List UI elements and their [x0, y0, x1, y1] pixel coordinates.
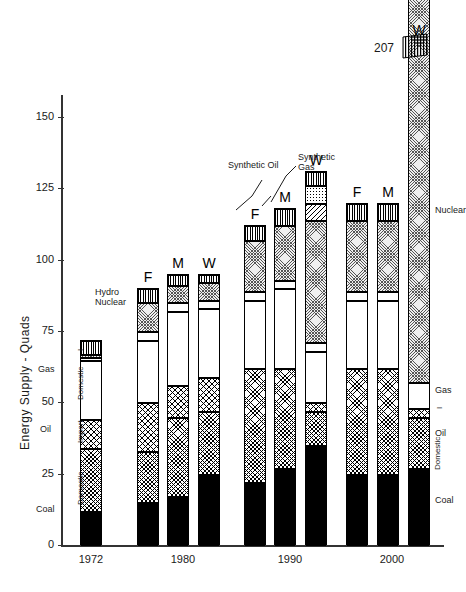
annotation-domestic-2: Domestic	[76, 472, 85, 505]
segment-hydro	[199, 275, 219, 284]
segment-gas-domestic	[138, 341, 158, 404]
scenario-label-1980-M: M	[163, 255, 193, 271]
y-tick-label: 75	[20, 324, 54, 336]
segment-hydro	[81, 341, 101, 355]
segment-oil-domestic	[275, 369, 295, 469]
segment-oil-import	[306, 403, 326, 412]
annotation-hydro-7: Hydro	[95, 287, 119, 297]
segment-gas-import	[245, 292, 265, 301]
segment-nuclear	[245, 241, 265, 292]
segment-coal	[347, 475, 367, 546]
annotation-synthetic-gas-10: Synthetic Gas	[298, 152, 350, 172]
segment-hydro	[138, 289, 158, 303]
y-tick-label: 25	[20, 467, 54, 479]
segment-gas-import	[347, 292, 367, 301]
bar-1980-M[interactable]	[167, 274, 189, 545]
segment-nuclear	[378, 221, 398, 292]
bar-1980-W[interactable]	[198, 274, 220, 545]
segment-gas-import	[306, 343, 326, 352]
x-axis-label-1990: 1990	[265, 553, 315, 565]
segment-nuclear	[275, 226, 295, 280]
right-label-nuclear: Nuclear	[435, 205, 466, 215]
segment-nuclear	[168, 286, 188, 303]
bar-2000-M[interactable]	[377, 203, 399, 545]
segment-coal	[168, 497, 188, 546]
annotation-gas-4: Gas	[38, 364, 55, 374]
segment-coal	[275, 469, 295, 546]
segment-gas-domestic	[168, 312, 188, 386]
scenario-label-2000-M: M	[373, 184, 403, 200]
right-label-gas: Gas	[435, 385, 452, 395]
segment-coal	[409, 469, 429, 546]
segment-gas-domestic	[275, 289, 295, 369]
segment-nuclear	[81, 355, 101, 358]
segment-oil-domestic	[306, 412, 326, 446]
segment-gas-domestic	[347, 301, 367, 369]
y-tick-label: 0	[20, 538, 54, 550]
y-tick-mark	[58, 331, 64, 332]
y-tick-mark	[58, 402, 64, 403]
y-tick-label: 125	[20, 181, 54, 193]
segment-oil-domestic	[409, 418, 429, 469]
segment-coal	[245, 483, 265, 546]
segment-gas-import	[168, 303, 188, 312]
segment-gas-domestic	[378, 301, 398, 369]
segment-coal	[138, 503, 158, 546]
scenario-label-1980-W: W	[194, 255, 224, 271]
bar-2000-W[interactable]	[408, 0, 430, 545]
y-tick-mark	[58, 117, 64, 118]
segment-oil-domestic	[199, 412, 219, 475]
right-label-coal: Coal	[435, 495, 454, 505]
y-tick-mark	[58, 545, 64, 546]
segment-gas-import	[275, 281, 295, 290]
bar-1990-W[interactable]	[305, 171, 327, 545]
segment-hydro	[275, 209, 295, 226]
bar-break-flag-icon	[402, 33, 436, 61]
segment-hydro	[306, 172, 326, 186]
segment-coal	[378, 475, 398, 546]
segment-hydro	[347, 204, 367, 221]
x-axis-label-1972: 1972	[66, 553, 116, 565]
total-label-207: 207	[374, 41, 394, 55]
right-label-domestic: Domestic	[433, 437, 442, 470]
y-axis-line	[61, 95, 63, 546]
annotation-import-3: Import	[76, 420, 85, 443]
segment-nuclear	[347, 221, 367, 292]
segment-gas-import	[81, 358, 101, 361]
scenario-label-1980-F: F	[133, 269, 163, 285]
segment-synthetic-oil	[306, 204, 326, 221]
annotation-nuclear-8: Nuclear	[95, 297, 126, 307]
segment-oil-import	[138, 403, 158, 452]
segment-gas-domestic	[245, 301, 265, 369]
annotation-domestic-5: Domestic	[76, 367, 85, 400]
y-tick-mark	[58, 188, 64, 189]
segment-synthetic-gas	[306, 186, 326, 203]
bar-1990-F[interactable]	[244, 225, 266, 545]
y-tick-label: 100	[20, 253, 54, 265]
segment-oil-domestic	[378, 369, 398, 475]
bar-1990-M[interactable]	[274, 208, 296, 545]
scenario-label-1990-F: F	[240, 206, 270, 222]
y-tick-mark	[58, 474, 64, 475]
segment-gas-import	[138, 332, 158, 341]
segment-gas-domestic	[199, 309, 219, 377]
y-tick-label: 150	[20, 110, 54, 122]
segment-coal	[199, 475, 219, 546]
x-axis-label-2000: 2000	[367, 553, 417, 565]
bar-1980-F[interactable]	[137, 288, 159, 545]
x-axis-label-1980: 1980	[158, 553, 208, 565]
segment-gas-domestic	[306, 352, 326, 403]
segment-nuclear	[138, 303, 158, 332]
segment-nuclear	[306, 221, 326, 344]
bar-2000-F[interactable]	[346, 203, 368, 545]
annotation-synthetic-oil-9: Synthetic Oil	[228, 160, 280, 170]
annotation-i-6: I	[76, 349, 85, 351]
segment-gas-import	[199, 301, 219, 310]
segment-gas-domestic	[409, 383, 429, 409]
y-tick-mark	[58, 260, 64, 261]
segment-coal	[81, 512, 101, 546]
segment-hydro	[378, 204, 398, 221]
annotation-oil-1: Oil	[40, 424, 51, 434]
right-label-i: I	[435, 407, 444, 409]
